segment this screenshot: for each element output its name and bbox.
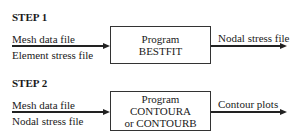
step1-output-arrow-line (211, 45, 281, 47)
program-name: BESTFIT (139, 45, 182, 57)
step2-output-arrow-line (211, 111, 281, 113)
step1-output-label: Nodal stress file (218, 32, 289, 44)
program-label: Program (142, 33, 180, 45)
arrow-icon (280, 109, 287, 115)
step1-input-element-stress: Element stress file (12, 49, 93, 61)
step2-input-nodal-stress: Nodal stress file (12, 115, 83, 127)
program-label: Program (142, 93, 180, 105)
step1-input-mesh: Mesh data file (12, 33, 75, 45)
step2-output-label: Contour plots (218, 98, 278, 110)
step1-title: STEP 1 (12, 11, 47, 23)
arrow-icon (103, 43, 110, 49)
step2-title: STEP 2 (12, 77, 47, 89)
program-name-alt: or CONTOURB (124, 117, 196, 129)
arrow-icon (280, 43, 287, 49)
program-contour-box: Program CONTOURA or CONTOURB (110, 91, 211, 131)
arrow-icon (103, 109, 110, 115)
program-name: CONTOURA (130, 105, 191, 117)
step2-input-mesh: Mesh data file (12, 99, 75, 111)
step1-input-arrow-line (12, 45, 104, 47)
program-bestfit-box: Program BESTFIT (110, 26, 211, 64)
step2-input-arrow-line (12, 111, 104, 113)
